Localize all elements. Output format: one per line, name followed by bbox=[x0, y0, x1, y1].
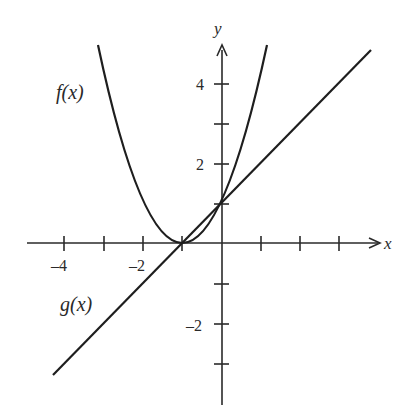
y-tick-label-4: 4 bbox=[196, 76, 204, 93]
y-axis-label: y bbox=[212, 19, 222, 38]
f-label: f(x) bbox=[56, 81, 84, 104]
plot-canvas: –4 –2 4 2 –2 x y f(x) g(x) bbox=[0, 0, 413, 413]
y-tick-label-neg2: –2 bbox=[185, 317, 202, 334]
x-tick-label-neg4: –4 bbox=[50, 257, 67, 274]
y-tick-label-2: 2 bbox=[196, 156, 204, 173]
f-curve bbox=[98, 45, 267, 243]
g-line bbox=[53, 50, 371, 375]
x-tick-label-neg2: –2 bbox=[128, 257, 145, 274]
x-axis-label: x bbox=[383, 234, 392, 253]
g-label: g(x) bbox=[60, 293, 93, 316]
function-graph: –4 –2 4 2 –2 x y f(x) g(x) bbox=[0, 0, 413, 413]
